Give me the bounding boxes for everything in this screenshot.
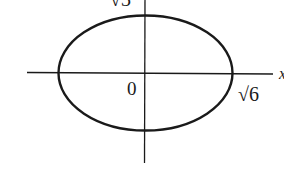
x-intercept-label: √6: [238, 83, 259, 105]
origin-label: 0: [127, 78, 137, 99]
x-axis-label: x: [278, 65, 284, 82]
y-intercept-label: √3: [110, 0, 131, 10]
y-axis: [145, 0, 146, 163]
ellipse-diagram: 0 √6 √3 x: [0, 0, 284, 189]
x-axis: [27, 73, 273, 75]
